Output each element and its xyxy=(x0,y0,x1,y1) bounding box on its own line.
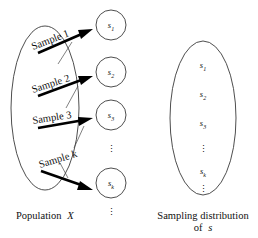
sample-arrow-3-head xyxy=(78,117,93,126)
distribution-entry-2-subscript: 2 xyxy=(203,95,206,101)
sampling-distribution-figure: s1 s2 s3 sk ⋮ ⋮ xyxy=(0,0,258,238)
population-caption-word: Population xyxy=(16,210,62,221)
sample-arrow-2-head xyxy=(78,76,93,85)
circle-1-subscript: 1 xyxy=(111,26,114,32)
circle-2-subscript: 2 xyxy=(111,73,114,79)
distribution-ellipsis-bottom: ⋮ xyxy=(199,184,208,194)
distribution-entry-3: s3 xyxy=(200,118,206,130)
sample-circle-2-label: s2 xyxy=(108,67,114,79)
distribution-entry-k: sk xyxy=(200,166,206,178)
distribution-entry-1-subscript: 1 xyxy=(203,66,206,72)
circle-k-subscript: k xyxy=(111,184,114,190)
connector-tick-3 xyxy=(74,126,84,148)
sample-label-k: Sample k xyxy=(37,148,79,170)
sample-arrow-k xyxy=(41,171,93,190)
population-caption: Population X xyxy=(16,210,74,221)
sample-circle-3-label: s3 xyxy=(108,110,114,122)
sample-circle-1-label: s1 xyxy=(108,20,114,32)
distribution-caption-line2: of s xyxy=(194,222,212,233)
connector-tick-2 xyxy=(66,86,78,108)
diagram-canvas: s1 s2 s3 sk ⋮ ⋮ xyxy=(0,0,258,238)
distribution-entry-1: s1 xyxy=(200,60,206,72)
sample-arrow-k-head xyxy=(77,181,93,190)
circle-3-subscript: 3 xyxy=(110,116,114,122)
distribution-caption-variable: s xyxy=(208,222,212,233)
sample-arrow-1-head xyxy=(78,29,93,39)
sample-circle-k-label: sk xyxy=(108,178,114,190)
distribution-caption-line1: Sampling distribution xyxy=(157,210,249,221)
distribution-entry-2: s2 xyxy=(200,89,206,101)
distribution-ellipsis-middle: ⋮ xyxy=(199,144,208,154)
sample-label-k-text: Sample k xyxy=(37,148,79,170)
distribution-entry-k-subscript: k xyxy=(203,172,206,178)
population-caption-variable: X xyxy=(66,210,74,221)
sample-column-ellipsis-middle: ⋮ xyxy=(107,144,116,154)
distribution-entry-3-subscript: 3 xyxy=(202,124,206,130)
sample-column-ellipsis-bottom: ⋮ xyxy=(107,207,116,217)
distribution-caption-of: of xyxy=(194,222,203,233)
